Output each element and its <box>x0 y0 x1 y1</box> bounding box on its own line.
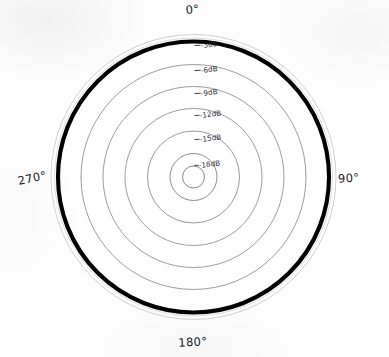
axis-crosshair <box>36 20 352 330</box>
radial-tick-label-minus3db: -3dB <box>200 39 218 50</box>
radial-tick-label-minus12db: -12dB <box>199 108 222 120</box>
radial-tick-label-minus18db: -18dB <box>198 158 221 170</box>
radial-tick-label-minus6db: -6dB <box>200 64 218 75</box>
polar-plot-canvas: -3dB -6dB -9dB -12dB -15dB -18dB 0° 90° … <box>0 0 389 357</box>
radial-tick-marks <box>195 45 201 165</box>
radial-tick-label-minus15db: -15dB <box>199 132 222 144</box>
radial-tick-labels: -3dB -6dB -9dB -12dB -15dB -18dB <box>198 39 222 170</box>
radial-tick-label-minus9db: -9dB <box>200 87 218 98</box>
angle-label-270-degrees: 270° <box>17 168 48 188</box>
angle-label-0-degrees: 0° <box>185 2 200 17</box>
angle-label-90-degrees: 90° <box>338 170 360 185</box>
polar-chart-page: -3dB -6dB -9dB -12dB -15dB -18dB 0° 90° … <box>0 0 389 357</box>
angle-label-180-degrees: 180° <box>178 334 208 349</box>
